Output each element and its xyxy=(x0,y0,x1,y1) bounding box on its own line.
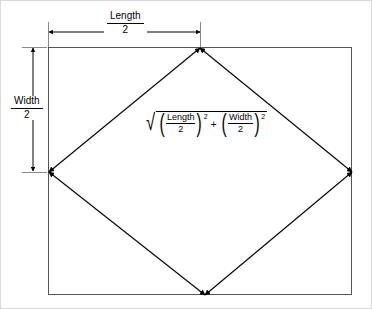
left-paren-1: ( xyxy=(159,116,164,130)
formula-operator: + xyxy=(211,119,217,130)
width-fraction: Width 2 xyxy=(11,96,43,120)
width-numerator: Width xyxy=(11,96,43,107)
term2-numerator: Width xyxy=(228,113,253,122)
length-dimension-label: Length 2 xyxy=(104,11,147,35)
term2-denominator: 2 xyxy=(228,125,253,134)
diagram-graphics xyxy=(0,0,372,309)
diagram-canvas: Length 2 Width 2 √ ( Length 2 ) 2 xyxy=(0,0,372,309)
formula-term-length: ( Length 2 ) 2 xyxy=(158,113,208,134)
width-half-fraction: Width 2 xyxy=(228,113,253,134)
formula-term-width: ( Width 2 ) 2 xyxy=(220,113,266,134)
term1-exponent: 2 xyxy=(204,113,208,120)
length-fraction: Length 2 xyxy=(107,11,144,35)
length-half-fraction: Length 2 xyxy=(166,113,196,134)
image-frame xyxy=(1,1,372,309)
distance-formula: √ ( Length 2 ) 2 + ( Width 2 xyxy=(146,111,267,134)
term1-denominator: 2 xyxy=(166,125,196,134)
length-numerator: Length xyxy=(107,11,144,22)
right-paren-1: ) xyxy=(197,116,202,130)
width-dimension-label: Width 2 xyxy=(9,96,45,120)
length-denominator: 2 xyxy=(107,25,144,36)
term1-numerator: Length xyxy=(166,113,196,122)
term2-exponent: 2 xyxy=(261,113,265,120)
left-paren-2: ( xyxy=(221,116,226,130)
right-paren-2: ) xyxy=(254,116,259,130)
radical-icon: √ xyxy=(146,116,155,128)
formula-radicand: ( Length 2 ) 2 + ( Width 2 ) 2 xyxy=(156,111,268,134)
width-denominator: 2 xyxy=(11,110,43,121)
